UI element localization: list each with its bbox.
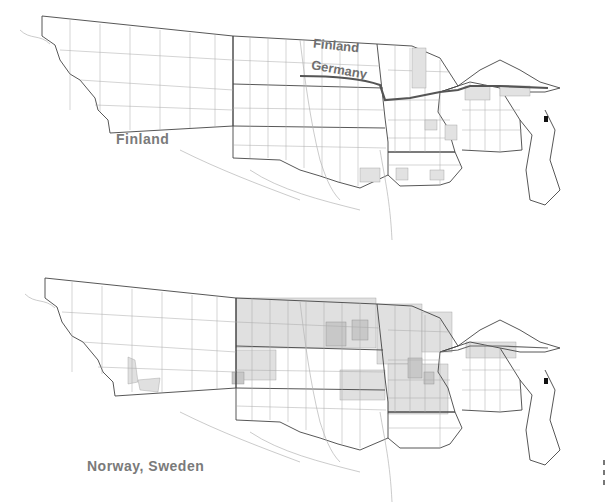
edge-mark: [603, 480, 605, 485]
label-finland-west: Finland: [116, 131, 169, 147]
map-norway-sweden: Norway, Sweden: [0, 260, 607, 504]
edge-mark: [603, 470, 605, 475]
label-norway-sweden: Norway, Sweden: [87, 458, 204, 474]
map-graphic-top: [0, 0, 607, 250]
map-finland-germany: Finland Finland Germany: [0, 0, 607, 250]
edge-mark: [603, 460, 605, 465]
